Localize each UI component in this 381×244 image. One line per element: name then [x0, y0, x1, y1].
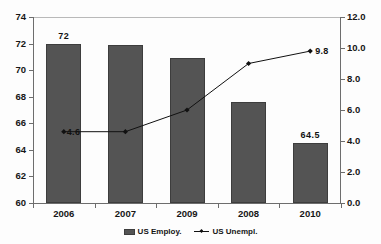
x-tick	[279, 204, 280, 208]
line-swatch-icon	[194, 228, 209, 235]
y-axis-left	[33, 17, 34, 204]
bar-2006[interactable]	[46, 44, 81, 203]
y-tick	[29, 176, 33, 177]
x-axis-label-2007: 2007	[94, 209, 156, 219]
bar-2010[interactable]	[293, 143, 328, 203]
bar-value-label-2006: 72	[34, 32, 94, 41]
y-tick-label-70: 70	[2, 65, 26, 74]
y2-tick	[341, 172, 345, 173]
y-tick	[29, 44, 33, 45]
legend-label-us-unempl: US Unempl.	[212, 227, 257, 236]
y2-tick	[341, 79, 345, 80]
y-tick	[29, 123, 33, 124]
y2-tick	[341, 141, 345, 142]
y-tick-label-74: 74	[2, 12, 26, 21]
y2-tick-label-8.0: 8.0	[347, 74, 379, 83]
x-tick	[33, 204, 34, 208]
y-tick-label-66: 66	[2, 118, 26, 127]
x-axis	[33, 203, 341, 204]
y2-tick-label-2.0: 2.0	[347, 167, 379, 176]
y-tick	[29, 97, 33, 98]
legend-label-us-employ: US Employ.	[138, 227, 182, 236]
x-axis-label-2008: 2008	[218, 209, 280, 219]
y2-tick	[341, 110, 345, 111]
x-tick	[156, 204, 157, 208]
bar-2009[interactable]	[170, 58, 205, 203]
x-tick	[95, 204, 96, 208]
y2-tick-label-0.0: 0.0	[347, 198, 379, 207]
bar-swatch-icon	[124, 229, 135, 235]
x-axis-label-2009: 2009	[156, 209, 218, 219]
line-value-label-2006: 4.6	[67, 128, 80, 137]
y-tick	[29, 70, 33, 71]
chart-container: 6062646668707274 0.02.04.06.08.010.012.0…	[0, 0, 381, 244]
chart-legend: US Employ. US Unempl.	[0, 227, 381, 236]
bar-2007[interactable]	[108, 45, 143, 203]
y2-tick-label-12.0: 12.0	[347, 12, 379, 21]
y2-tick-label-10.0: 10.0	[347, 43, 379, 52]
x-axis-label-2006: 2006	[33, 209, 95, 219]
line-value-label-2010: 9.8	[315, 47, 328, 56]
legend-item-us-employ[interactable]: US Employ.	[124, 227, 182, 236]
y-tick	[29, 150, 33, 151]
bar-2008[interactable]	[231, 102, 266, 203]
bar-value-label-2010: 64.5	[280, 131, 340, 140]
y-tick-label-62: 62	[2, 171, 26, 180]
y2-tick	[341, 17, 345, 18]
y-tick-label-72: 72	[2, 39, 26, 48]
x-tick	[341, 204, 342, 208]
y2-tick-label-4.0: 4.0	[347, 136, 379, 145]
y-tick-label-60: 60	[2, 198, 26, 207]
legend-item-us-unempl[interactable]: US Unempl.	[194, 227, 257, 236]
chart-title-cropped	[34, 0, 334, 2]
y2-tick	[341, 48, 345, 49]
y-tick-label-64: 64	[2, 145, 26, 154]
x-tick	[218, 204, 219, 208]
x-axis-label-2010: 2010	[279, 209, 341, 219]
y-tick-label-68: 68	[2, 92, 26, 101]
y2-tick-label-6.0: 6.0	[347, 105, 379, 114]
y-tick	[29, 17, 33, 18]
